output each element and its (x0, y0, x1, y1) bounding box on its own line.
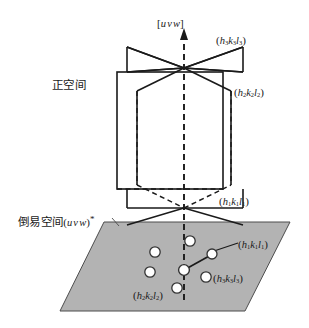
paren-close: ) (264, 238, 268, 250)
reciprocal-star: * (90, 214, 95, 224)
reciprocal-point-h1k1l1 (207, 249, 217, 259)
paren-close: ) (159, 289, 163, 301)
plane-label-h1k1l1: (h1k1l1) (219, 192, 249, 208)
figure-canvas (0, 0, 309, 328)
plane-label-h3k3l3: (h3k3l3) (216, 31, 246, 47)
real-space-label: 正空间 (52, 80, 86, 92)
reciprocal-point-h2k2l2 (172, 283, 182, 293)
paren-close: ) (242, 34, 246, 46)
upper-bowtie-cross-b (127, 47, 243, 72)
plane-label-h2k2l2: (h2k2l2) (234, 83, 264, 99)
paren-close: ) (239, 272, 243, 284)
paren-close: ) (245, 195, 249, 207)
reciprocal-point-origin (179, 265, 190, 276)
paren-close: ) (260, 86, 264, 98)
reciprocal-point-h3k3l3 (201, 272, 211, 282)
reciprocal-label-h1k1l1: (h1k1l1) (238, 235, 268, 251)
zone-axis-label: [uvw] (157, 14, 184, 30)
reciprocal-label-h2k2l2: (h2k2l2) (133, 286, 163, 302)
crystallography-zone-axis-figure: [uvw] 正空间 倒易空间(uvw)* (h3k3l3) (h2k2l2) (… (0, 0, 309, 328)
zone-axis-w: w (173, 18, 180, 29)
reciprocal-space-text: 倒易空间 (18, 215, 63, 229)
reciprocal-point (150, 247, 160, 257)
reciprocal-label-h3k3l3: (h3k3l3) (213, 269, 243, 285)
zone-axis-bracket-close: ] (180, 17, 184, 29)
reciprocal-point (185, 236, 195, 246)
reciprocal-space-label: 倒易空间(uvw)* (18, 213, 94, 229)
plane-h2k2l2-outline (117, 72, 223, 189)
reciprocal-point (145, 267, 155, 277)
